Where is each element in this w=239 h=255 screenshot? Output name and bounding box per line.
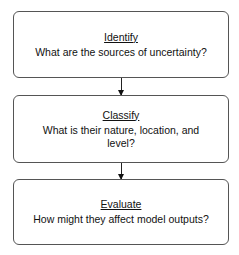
step-evaluate-question: How might they affect model outputs?: [33, 213, 209, 226]
step-identify-question: What are the sources of uncertainty?: [35, 46, 207, 59]
arrow-down-icon: [121, 78, 122, 95]
step-classify-question: What is their nature, location, and leve…: [28, 124, 214, 150]
step-classify-box: Classify What is their nature, location,…: [13, 95, 229, 163]
step-evaluate-box: Evaluate How might they affect model out…: [13, 179, 229, 245]
arrow-down-icon: [121, 163, 122, 179]
step-identify-box: Identify What are the sources of uncerta…: [13, 11, 229, 78]
step-identify-title: Identify: [104, 31, 138, 44]
step-classify-title: Classify: [103, 109, 140, 122]
step-evaluate-title: Evaluate: [101, 198, 142, 211]
